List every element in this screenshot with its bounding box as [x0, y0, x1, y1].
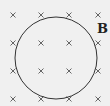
field-cross-icon	[96, 97, 101, 102]
field-cross-icon	[11, 69, 16, 74]
magnetic-field-diagram: B	[0, 0, 110, 106]
field-label-b: B	[97, 21, 108, 36]
field-cross-icon	[96, 69, 101, 74]
field-cross-icon	[67, 13, 72, 18]
field-cross-icon	[96, 41, 101, 46]
field-cross-icon	[67, 41, 72, 46]
field-crosses	[11, 13, 101, 102]
field-cross-icon	[39, 69, 44, 74]
circular-loop	[15, 17, 97, 99]
field-cross-icon	[67, 69, 72, 74]
field-cross-icon	[11, 13, 16, 18]
field-cross-icon	[39, 13, 44, 18]
field-cross-icon	[96, 13, 101, 18]
field-cross-icon	[11, 41, 16, 46]
field-cross-icon	[11, 97, 16, 102]
field-cross-icon	[39, 41, 44, 46]
